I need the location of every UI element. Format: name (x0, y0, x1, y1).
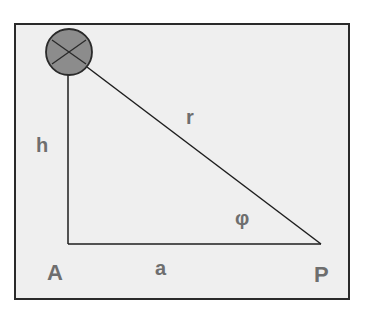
label-phi: φ (235, 207, 249, 229)
label-base-a: a (155, 257, 167, 279)
label-r: r (186, 106, 194, 128)
label-point-a: A (47, 260, 63, 285)
label-point-p: P (314, 262, 329, 287)
source-circle-icon (46, 29, 92, 75)
label-h: h (36, 134, 48, 156)
triangle-diagram: h r φ A a P (0, 0, 369, 313)
